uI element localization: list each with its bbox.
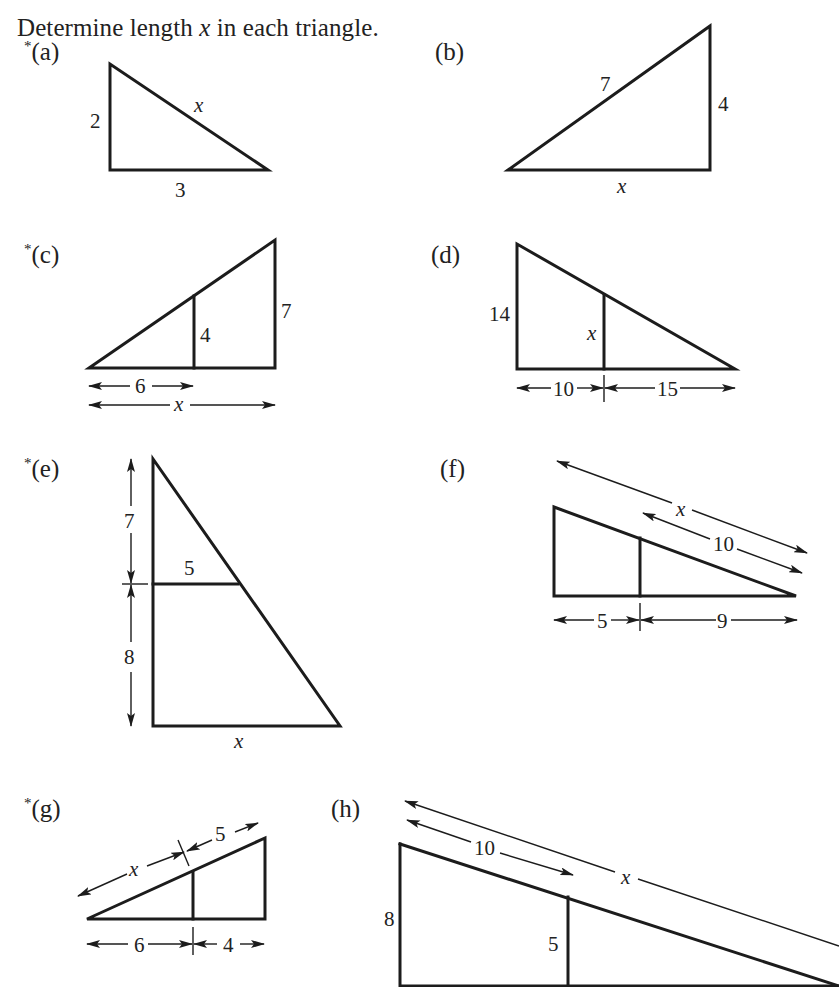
- dim-g-5-left: [187, 840, 212, 851]
- label-b-hypotenuse: 7: [600, 72, 611, 96]
- dim-g-x-right: [147, 852, 184, 866]
- label-b-vertical: 4: [718, 92, 729, 116]
- triangle-b: 7 4 x: [508, 26, 729, 198]
- triangle-d: 14 x 10 15: [489, 244, 735, 402]
- triangle-h: 8 5 10 x: [384, 801, 839, 986]
- label-d-outer-vertical: 14: [489, 302, 511, 326]
- label-g-left-segment: 6: [134, 933, 145, 957]
- triangle-a-outline: [110, 64, 268, 170]
- label-f-full-hypotenuse: x: [675, 497, 686, 521]
- label-h-inner-vertical: 5: [548, 932, 559, 956]
- label-g-lower-hypotenuse: x: [128, 857, 139, 881]
- dim-f-10-right: [737, 549, 802, 573]
- dim-f-x-right: [692, 510, 807, 553]
- triangle-g: x 5 6 4: [78, 822, 265, 957]
- label-a-base: 3: [175, 178, 186, 202]
- dim-g-5-right: [235, 823, 258, 832]
- label-a-vertical: 2: [90, 109, 101, 133]
- triangle-e-outline: [153, 459, 340, 726]
- label-d-left-segment: 10: [553, 377, 574, 401]
- figures: 2 3 x 7 4 x 4 7 6 x 14: [0, 0, 839, 987]
- triangle-f: x 10 5 9: [554, 461, 807, 633]
- triangle-c-outline: [89, 240, 275, 368]
- triangle-b-outline: [508, 26, 710, 170]
- triangle-c: 4 7 6 x: [89, 240, 292, 416]
- triangle-f-outline: [554, 507, 796, 596]
- label-c-full-base: x: [173, 392, 184, 416]
- label-e-lower-height: 8: [124, 645, 135, 669]
- dim-h-x-left: [405, 801, 615, 872]
- triangle-g-outline: [87, 838, 265, 919]
- dim-f-x-left: [557, 461, 672, 503]
- label-c-inner-vertical: 4: [200, 323, 211, 347]
- label-c-outer-vertical: 7: [281, 299, 292, 323]
- label-a-hypotenuse: x: [193, 93, 204, 117]
- dim-h-10-right: [500, 853, 573, 875]
- label-g-right-segment: 4: [223, 933, 234, 957]
- dim-g-x-left: [78, 874, 127, 896]
- triangle-e: 7 8 5 x: [122, 459, 340, 753]
- dim-h-10-left: [407, 820, 471, 842]
- label-h-full-hypotenuse: x: [620, 865, 631, 889]
- label-e-inner-width: 5: [184, 556, 195, 580]
- triangle-d-outline: [517, 244, 735, 369]
- label-d-inner-vertical: x: [586, 321, 597, 345]
- label-d-right-segment: 15: [657, 377, 678, 401]
- dim-h-x-right: [638, 879, 839, 946]
- label-g-upper-hypotenuse: 5: [215, 822, 226, 846]
- label-e-base: x: [233, 729, 244, 753]
- label-f-partial-hypotenuse: 10: [713, 532, 734, 556]
- triangle-h-hypotenuse: [400, 844, 839, 986]
- exercise-page: Determine length x in each triangle. *(a…: [0, 0, 839, 987]
- label-e-upper-height: 7: [124, 509, 135, 533]
- label-f-left-segment: 5: [597, 609, 608, 633]
- label-f-right-segment: 9: [717, 609, 728, 633]
- label-b-base: x: [616, 174, 627, 198]
- label-h-outer-vertical: 8: [384, 907, 395, 931]
- label-h-partial-hypotenuse: 10: [474, 836, 495, 860]
- triangle-a: 2 3 x: [90, 64, 268, 202]
- label-c-inner-base: 6: [135, 374, 146, 398]
